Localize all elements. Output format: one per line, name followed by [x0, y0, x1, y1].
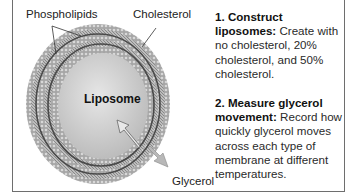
procedure-steps: 1. Construct liposomes: Create with no c… [215, 10, 343, 196]
label-glycerol: Glycerol [172, 175, 214, 187]
step-1-title: 1. Construct liposomes: [215, 10, 283, 37]
step-1: 1. Construct liposomes: Create with no c… [215, 10, 343, 81]
step-2: 2. Measure glycerol movement: Record how… [215, 96, 343, 181]
label-phospholipids: Phospholipids [26, 8, 98, 20]
label-liposome: Liposome [84, 92, 141, 106]
label-cholesterol: Cholesterol [133, 8, 191, 20]
